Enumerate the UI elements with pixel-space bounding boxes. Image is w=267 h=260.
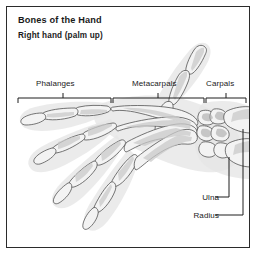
region-label-metacarpals: Metacarpals xyxy=(132,79,177,88)
region-label-carpals: Carpals xyxy=(206,79,234,88)
title-block: Bones of the Hand Right hand (palm up) xyxy=(18,14,218,42)
page-subtitle: Right hand (palm up) xyxy=(18,29,218,42)
page-title: Bones of the Hand xyxy=(18,14,218,27)
side-label-radius: Radius xyxy=(179,211,219,220)
figure-frame: Bones of the Hand Right hand (palm up) P… xyxy=(6,6,250,248)
figure-root: Bones of the Hand Right hand (palm up) P… xyxy=(0,0,267,260)
side-label-ulna: Ulna xyxy=(185,193,219,202)
region-label-phalanges: Phalanges xyxy=(36,79,75,88)
